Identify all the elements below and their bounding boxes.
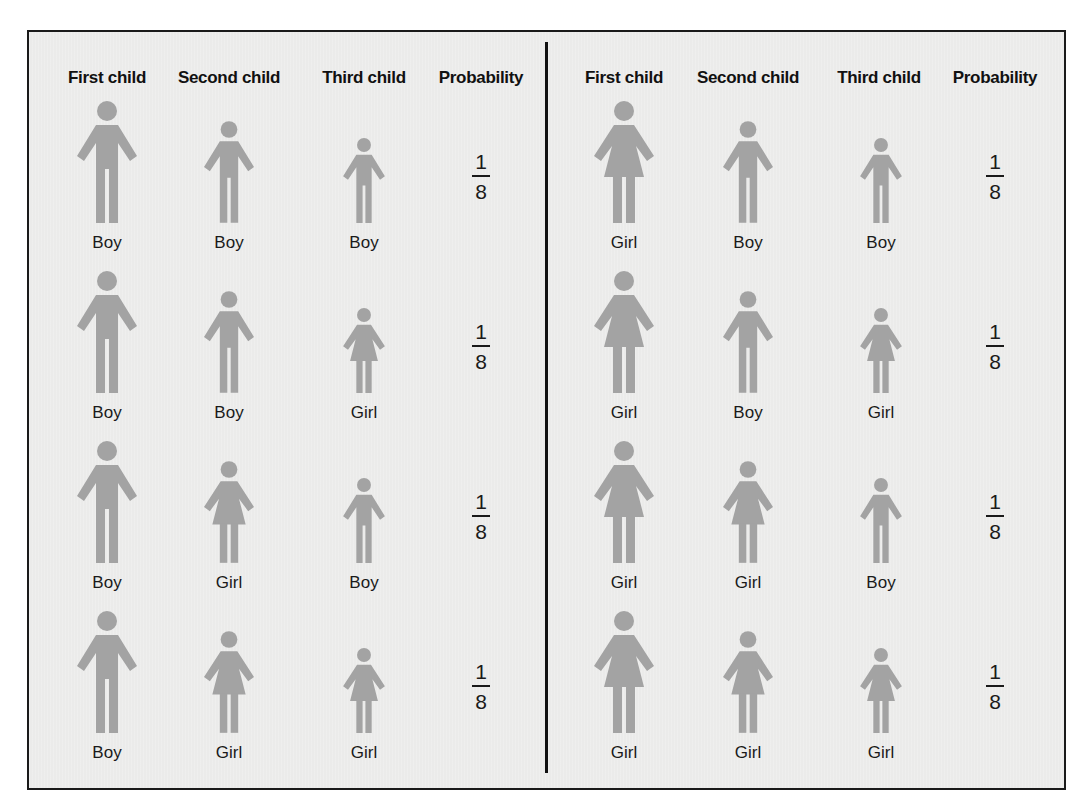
- child-sex-label: Girl: [351, 403, 377, 423]
- child-sex-label: Girl: [611, 233, 637, 253]
- header-third-child: Third child: [837, 68, 921, 88]
- boy-figure-icon-svg: [341, 138, 387, 223]
- child-sex-label: Girl: [351, 743, 377, 763]
- child-sex-label: Girl: [216, 573, 242, 593]
- girl-figure-icon-svg: [721, 631, 776, 733]
- fraction-numerator: 1: [989, 491, 1001, 515]
- header-first-child: First child: [68, 68, 146, 88]
- girl-figure-icon: [721, 461, 776, 563]
- child-sex-label: Girl: [611, 573, 637, 593]
- girl-figure-icon: [858, 308, 904, 393]
- fraction-numerator: 1: [989, 661, 1001, 685]
- fraction-numerator: 1: [989, 321, 1001, 345]
- girl-figure-icon: [591, 441, 657, 563]
- child-sex-label: Boy: [214, 233, 243, 253]
- girl-figure-icon-svg: [591, 101, 657, 223]
- probability-fraction: 18: [986, 321, 1004, 372]
- boy-figure-icon: [202, 291, 257, 393]
- girl-figure-icon: [591, 611, 657, 733]
- girl-figure-icon: [721, 631, 776, 733]
- boy-figure-icon: [74, 441, 140, 563]
- child-sex-label: Boy: [214, 403, 243, 423]
- girl-figure-icon-svg: [591, 271, 657, 393]
- child-sex-label: Boy: [349, 573, 378, 593]
- probability-fraction: 18: [986, 661, 1004, 712]
- girl-figure-icon-svg: [591, 441, 657, 563]
- child-sex-label: Boy: [92, 743, 121, 763]
- boy-figure-icon: [341, 138, 387, 223]
- fraction-denominator: 8: [989, 347, 1001, 372]
- header-third-child: Third child: [322, 68, 406, 88]
- fraction-denominator: 8: [475, 517, 487, 542]
- child-sex-label: Boy: [92, 403, 121, 423]
- boy-figure-icon: [341, 478, 387, 563]
- fraction-denominator: 8: [989, 687, 1001, 712]
- boy-figure-icon-svg: [858, 478, 904, 563]
- probability-fraction: 18: [472, 491, 490, 542]
- boy-figure-icon: [858, 138, 904, 223]
- child-sex-label: Boy: [349, 233, 378, 253]
- girl-figure-icon: [202, 631, 257, 733]
- boy-figure-icon: [721, 121, 776, 223]
- girl-figure-icon-svg: [858, 648, 904, 733]
- girl-figure-icon-svg: [202, 631, 257, 733]
- boy-figure-icon-svg: [202, 121, 257, 223]
- boy-figure-icon: [74, 101, 140, 223]
- boy-figure-icon-svg: [74, 101, 140, 223]
- header-probability: Probability: [439, 68, 524, 88]
- child-sex-label: Girl: [735, 743, 761, 763]
- boy-figure-icon: [202, 121, 257, 223]
- fraction-numerator: 1: [475, 151, 487, 175]
- boy-figure-icon-svg: [858, 138, 904, 223]
- boy-figure-icon: [74, 611, 140, 733]
- girl-figure-icon: [202, 461, 257, 563]
- fraction-numerator: 1: [989, 151, 1001, 175]
- boy-figure-icon-svg: [202, 291, 257, 393]
- probability-fraction: 18: [472, 151, 490, 202]
- fraction-numerator: 1: [475, 491, 487, 515]
- fraction-denominator: 8: [475, 347, 487, 372]
- girl-figure-icon: [591, 271, 657, 393]
- header-first-child: First child: [585, 68, 663, 88]
- girl-figure-icon: [341, 308, 387, 393]
- girl-figure-icon-svg: [341, 648, 387, 733]
- girl-figure-icon-svg: [591, 611, 657, 733]
- boy-figure-icon-svg: [74, 611, 140, 733]
- fraction-numerator: 1: [475, 321, 487, 345]
- fraction-denominator: 8: [475, 177, 487, 202]
- header-second-child: Second child: [697, 68, 799, 88]
- girl-figure-icon: [591, 101, 657, 223]
- child-sex-label: Boy: [92, 573, 121, 593]
- boy-figure-icon-svg: [74, 441, 140, 563]
- child-sex-label: Girl: [735, 573, 761, 593]
- fraction-denominator: 8: [475, 687, 487, 712]
- child-sex-label: Girl: [216, 743, 242, 763]
- girl-figure-icon: [341, 648, 387, 733]
- boy-figure-icon: [858, 478, 904, 563]
- header-probability: Probability: [953, 68, 1038, 88]
- fraction-denominator: 8: [989, 177, 1001, 202]
- girl-figure-icon-svg: [341, 308, 387, 393]
- probability-fraction: 18: [472, 661, 490, 712]
- boy-figure-icon-svg: [721, 291, 776, 393]
- child-sex-label: Girl: [868, 743, 894, 763]
- fraction-numerator: 1: [475, 661, 487, 685]
- child-sex-label: Boy: [866, 573, 895, 593]
- girl-figure-icon-svg: [202, 461, 257, 563]
- probability-fraction: 18: [986, 491, 1004, 542]
- boy-figure-icon-svg: [341, 478, 387, 563]
- child-sex-label: Boy: [92, 233, 121, 253]
- fraction-denominator: 8: [989, 517, 1001, 542]
- child-sex-label: Boy: [733, 403, 762, 423]
- child-sex-label: Girl: [611, 403, 637, 423]
- child-sex-label: Boy: [866, 233, 895, 253]
- header-second-child: Second child: [178, 68, 280, 88]
- girl-figure-icon: [858, 648, 904, 733]
- boy-figure-icon: [721, 291, 776, 393]
- panel-divider: [545, 42, 548, 773]
- child-sex-label: Girl: [868, 403, 894, 423]
- boy-figure-icon-svg: [721, 121, 776, 223]
- probability-fraction: 18: [472, 321, 490, 372]
- child-sex-label: Boy: [733, 233, 762, 253]
- boy-figure-icon-svg: [74, 271, 140, 393]
